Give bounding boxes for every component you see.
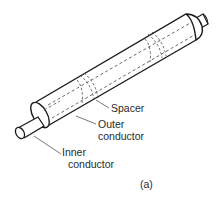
coaxial-cable-diagram: Spacer Outer conductor Inner conductor (… (0, 0, 220, 201)
inner-conductor-leader (34, 136, 61, 154)
figure-caption: (a) (140, 178, 153, 190)
inner-conductor-label-line2: conductor (68, 158, 114, 170)
outer-conductor-label-line2: conductor (98, 130, 144, 142)
cable-drawing (0, 0, 220, 201)
inner-conductor-near-end (14, 117, 44, 140)
outer-conductor-leader (76, 116, 96, 124)
inner-conductor-label-line1: Inner (62, 146, 86, 158)
spacer-leader (96, 100, 109, 108)
outer-conductor-label-line1: Outer (98, 118, 124, 130)
spacer-label: Spacer (111, 102, 144, 114)
